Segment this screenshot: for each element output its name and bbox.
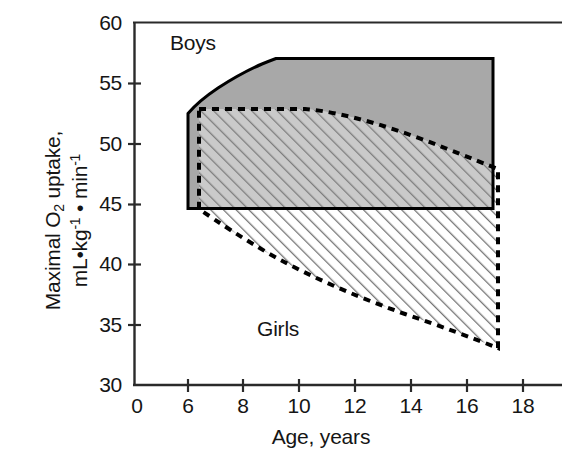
y-axis-title-part-min: min — [68, 166, 91, 199]
x-tick-label-14: 14 — [391, 394, 431, 418]
x-tick-label-6: 6 — [168, 394, 208, 418]
x-tick-label-10: 10 — [279, 394, 319, 418]
y-axis-title-part-kg: kg — [68, 230, 91, 252]
x-tick-label-12: 12 — [335, 394, 375, 418]
x-tick-label-0: 0 — [117, 394, 157, 418]
y-axis-title-bullet-2: • — [68, 199, 91, 217]
y-axis-title-part-uptake: uptake, — [41, 131, 64, 204]
y-axis-title-superscript-min: -1 — [67, 154, 83, 166]
y-axis-title-line1: Maximal O2 uptake, — [41, 11, 67, 431]
y-axis-title-line2: mL•kg-1 • min-1 — [67, 11, 92, 431]
x-tick-label-8: 8 — [223, 394, 263, 418]
y-axis-title-part-ml: mL — [68, 259, 91, 288]
y-axis-title-superscript-kg: -1 — [67, 218, 83, 230]
series-label-boys: Boys — [170, 31, 216, 55]
y-axis-title: Maximal O2 uptake, mL•kg-1 • min-1 — [41, 11, 92, 431]
x-axis-title-text: Age, years — [272, 425, 370, 448]
series-label-girls: Girls — [257, 317, 299, 341]
y-axis-title-subscript-2: 2 — [51, 204, 67, 212]
x-tick-label-18: 18 — [503, 394, 543, 418]
y-axis-title-bullet-1: • — [68, 251, 91, 258]
y-axis-title-part-maximal-o: Maximal O — [41, 212, 64, 311]
figure-max-o2-uptake-vs-age: 60 55 50 45 40 35 30 0 6 8 10 12 14 16 1… — [0, 0, 582, 472]
x-tick-label-16: 16 — [447, 394, 487, 418]
